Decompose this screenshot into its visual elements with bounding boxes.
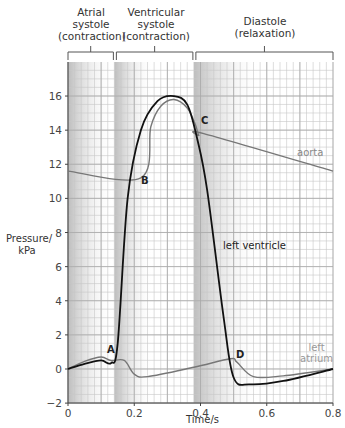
left-atrium-text: atrium [300,353,333,364]
y-tick-label: 6 [55,261,62,273]
phase-bracket [196,46,333,60]
x-tick-label: 0.6 [258,407,275,419]
y-tick-label: 10 [49,192,62,204]
y-tick-label: 4 [55,295,62,307]
point-b-label: B [141,175,149,186]
x-axis-label: Time/s [186,414,219,425]
y-tick-label: 14 [49,124,63,136]
point-d-label: D [236,349,244,360]
left-atrium-text: left [300,342,333,353]
point-c-label: C [201,115,208,126]
phase-bracket [116,46,193,60]
left-atrium-label: left atrium [300,342,333,364]
x-tick-label: 0.8 [325,407,342,419]
y-axis-label-text: Pressure/ [6,233,48,245]
y-tick-label: −2 [47,397,62,409]
phase-bracket [68,46,113,60]
y-tick-label: 2 [55,329,62,341]
pressure-chart: −2024681012141600.20.40.60.8 [0,0,345,428]
y-tick-label: 0 [55,363,62,375]
y-tick-label: 8 [55,227,62,239]
x-tick-label: 0.2 [126,407,143,419]
x-tick-label: 0 [65,407,72,419]
y-tick-label: 12 [49,158,62,170]
left-ventricle-label: left ventricle [223,240,286,251]
y-axis-label: Pressure/ kPa [6,233,48,257]
y-tick-label: 16 [49,90,63,102]
point-a-label: A [107,344,115,355]
aorta-label: aorta [297,147,323,158]
y-axis-label-text: kPa [6,245,48,257]
